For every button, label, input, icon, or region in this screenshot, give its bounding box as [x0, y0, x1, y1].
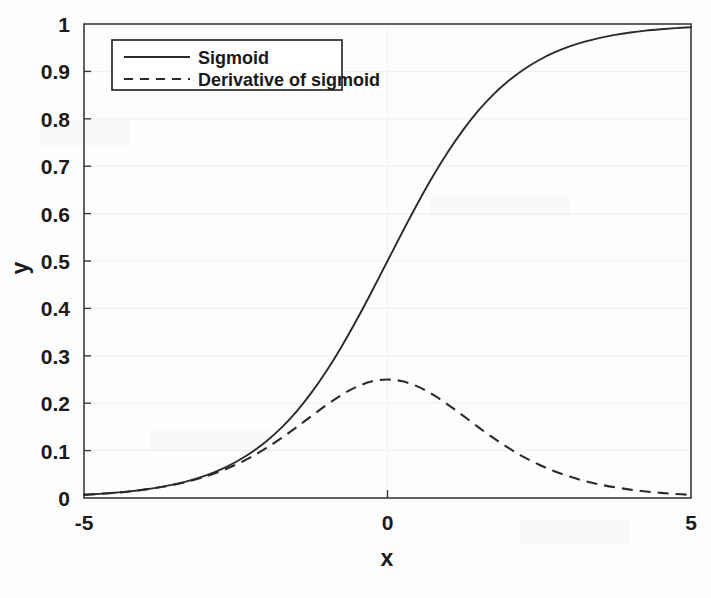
y-tick-labels: 00.10.20.30.40.50.60.70.80.91	[41, 13, 71, 510]
sigmoid-figure: 00.10.20.30.40.50.60.70.80.91 -505 Sigmo…	[0, 0, 711, 598]
y-axis-title: y	[7, 261, 33, 274]
x-tick-label: 5	[685, 511, 697, 534]
y-tick-marks	[84, 71, 91, 450]
y-tick-label: 0.1	[41, 440, 71, 463]
x-axis-title: x	[381, 545, 394, 571]
y-tick-label: 0.2	[41, 392, 70, 415]
legend-label-derivative: Derivative of sigmoid	[198, 70, 380, 90]
y-tick-label: 0.8	[41, 108, 71, 131]
x-tick-label: 0	[382, 511, 394, 534]
plot-canvas: 00.10.20.30.40.50.60.70.80.91 -505 Sigmo…	[0, 0, 711, 598]
legend-label-sigmoid: Sigmoid	[198, 48, 269, 68]
y-tick-label: 0.6	[41, 203, 70, 226]
y-tick-label: 0.7	[41, 155, 70, 178]
y-tick-label: 0.3	[41, 345, 70, 368]
y-tick-label: 0.9	[41, 60, 70, 83]
x-tick-labels: -505	[75, 511, 698, 534]
y-tick-label: 0.5	[41, 250, 71, 273]
x-tick-label: -5	[75, 511, 94, 534]
y-tick-label: 0	[58, 487, 70, 510]
y-tick-label: 1	[58, 13, 70, 36]
legend[interactable]: Sigmoid Derivative of sigmoid	[112, 40, 380, 90]
y-tick-label: 0.4	[41, 297, 71, 320]
